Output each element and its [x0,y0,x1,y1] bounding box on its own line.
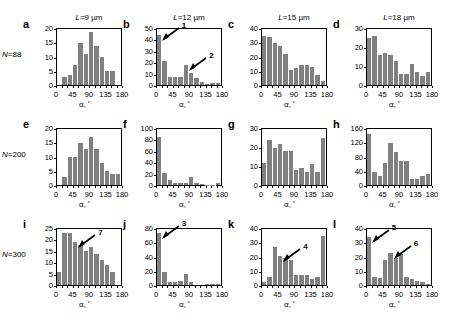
y-tick-mark [364,143,366,144]
x-tick-mark [122,86,123,88]
x-tick-mark-minor [106,86,107,88]
x-tick-mark-minor [394,286,395,288]
y-tick-mark [54,172,56,173]
x-tick-mark-minor [167,186,168,188]
x-tick-mark-minor [294,186,295,188]
x-tick-label: 180 [216,191,229,199]
x-tick-mark [222,286,223,288]
x-tick-mark-minor [427,186,428,188]
panel-letter-i: i [23,219,26,230]
x-tick-mark-minor [67,186,68,188]
bar [426,284,431,285]
x-axis-label-c: α, ° [284,100,295,109]
x-tick-mark [366,186,367,188]
x-tick-mark-minor [421,86,422,88]
x-tick-mark-minor [311,186,312,188]
x-tick-mark-minor [383,86,384,88]
x-tick-mark-minor [316,86,317,88]
x-tick-mark-minor [206,86,207,88]
x-tick-mark-minor [89,86,90,88]
bar-series-h [367,129,431,185]
x-tick-mark-minor [206,286,207,288]
annotation-label-3: 3 [182,220,186,228]
degree-symbol: ° [86,100,90,106]
x-tick-mark-minor [178,286,179,288]
y-tick-mark [154,129,156,130]
row-label-1: N=88 [2,50,21,59]
x-tick-mark-minor [267,186,268,188]
x-tick-mark [122,186,123,188]
y-tick-mark [154,40,156,41]
y-tick-label: 0 [235,282,258,290]
annotation-label-6: 6 [414,240,418,248]
y-tick-mark [154,152,156,153]
bar-series-f [157,129,221,185]
x-tick-mark-minor [95,286,96,288]
x-tick-mark-minor [377,86,378,88]
degree-symbol: ° [186,300,190,306]
x-tick-mark-minor [217,286,218,288]
y-tick-mark [154,258,156,259]
x-axis-label-g: α, ° [284,200,295,209]
x-tick-mark-minor [410,86,411,88]
x-tick-mark-minor [383,286,384,288]
x-tick-label: 45 [68,191,76,199]
panel-letter-f: f [123,119,127,130]
x-tick-mark-minor [95,186,96,188]
y-tick-mark [154,163,156,164]
annotation-label-2: 2 [209,52,213,60]
x-tick-mark [261,86,262,88]
row-label-value: =300 [8,250,26,259]
x-tick-label: 90 [185,91,193,99]
plot-area-f [156,128,222,186]
x-tick-label: 0 [154,191,158,199]
y-tick-label: 10 [235,268,258,276]
x-tick-label: 180 [216,91,229,99]
x-tick-label: 90 [395,91,403,99]
x-tick-label: 0 [259,191,263,199]
bar-series-c [262,29,326,85]
y-tick-label: 0 [30,282,53,290]
degree-symbol: ° [396,300,400,306]
y-tick-label: 0 [340,82,363,90]
x-tick-mark-minor [311,86,312,88]
x-tick-mark-minor [316,286,317,288]
row-label-value: =200 [8,150,26,159]
y-tick-mark [154,272,156,273]
x-tick-mark [261,186,262,188]
x-tick-label: 135 [409,91,422,99]
x-tick-label: 45 [273,91,281,99]
bar [426,174,431,185]
y-tick-mark [364,272,366,273]
alpha-symbol: α, [79,300,86,309]
y-tick-label: 30 [235,239,258,247]
x-tick-label: 135 [304,91,317,99]
x-tick-label: 0 [54,191,58,199]
x-tick-mark [432,286,433,288]
y-tick-label: 80 [130,136,153,144]
y-tick-mark [154,229,156,230]
y-tick-mark [364,48,366,49]
x-tick-label: 180 [426,191,439,199]
x-tick-mark-minor [272,186,273,188]
x-tick-label: 45 [68,91,76,99]
y-tick-label: 20 [30,236,53,244]
y-tick-label: 40 [235,225,258,233]
y-tick-label: 10 [340,63,363,71]
x-tick-label: 45 [378,91,386,99]
x-tick-mark-minor [416,286,417,288]
y-tick-mark [54,252,56,253]
x-tick-label: 135 [99,91,112,99]
annotation-arrow-6 [392,243,415,262]
x-tick-label: 45 [378,291,386,299]
row-label-value: =88 [8,50,22,59]
panel-letter-b: b [123,19,130,30]
y-tick-mark [259,72,261,73]
x-tick-mark-minor [283,186,284,188]
y-tick-label: 30 [340,25,363,33]
y-tick-mark [54,263,56,264]
column-header-value: =9 µm [80,13,103,22]
x-tick-mark-minor [322,186,323,188]
x-tick-mark-minor [162,286,163,288]
column-header-value: =18 µm [388,13,415,22]
